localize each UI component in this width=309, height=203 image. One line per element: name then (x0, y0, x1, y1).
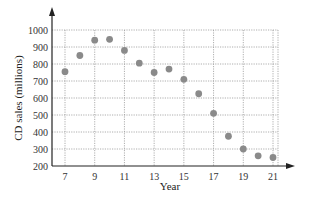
data-point (121, 47, 128, 54)
data-point (91, 37, 98, 44)
x-tick-label: 15 (179, 171, 189, 182)
y-axis-label: CD sales (millions) (12, 55, 25, 141)
x-tick-label: 13 (149, 171, 159, 182)
x-tick-label: 11 (120, 171, 130, 182)
x-tick-label: 21 (268, 171, 278, 182)
y-tick-label: 800 (33, 59, 48, 70)
data-point (240, 146, 247, 153)
y-tick-label: 200 (33, 161, 48, 172)
y-tick-label: 300 (33, 144, 48, 155)
y-axis-arrow-icon (49, 7, 55, 16)
grid-lines (52, 30, 278, 166)
data-point (225, 133, 232, 140)
x-axis-arrow-icon (286, 163, 295, 169)
y-tick-label: 500 (33, 110, 48, 121)
data-point (136, 60, 143, 67)
x-tick-label: 7 (63, 171, 68, 182)
axes (49, 7, 295, 169)
y-tick-label: 900 (33, 42, 48, 53)
x-tick-label: 19 (238, 171, 248, 182)
y-tick-labels: 2003004005006007008009001000 (28, 25, 48, 172)
data-point (151, 69, 158, 76)
data-point (106, 36, 113, 43)
x-tick-label: 17 (209, 171, 219, 182)
x-tick-label: 9 (92, 171, 97, 182)
data-point (76, 52, 83, 59)
data-point (270, 154, 277, 161)
data-point (62, 68, 69, 75)
data-point (166, 66, 173, 73)
data-point (195, 90, 202, 97)
data-points (62, 36, 277, 161)
scatter-chart: 2003004005006007008009001000 79111315171… (0, 0, 309, 203)
data-point (255, 152, 262, 159)
y-tick-label: 1000 (28, 25, 48, 36)
x-axis-label: Year (160, 180, 181, 192)
data-point (210, 110, 217, 117)
y-tick-label: 600 (33, 93, 48, 104)
y-tick-label: 700 (33, 76, 48, 87)
y-tick-label: 400 (33, 127, 48, 138)
data-point (180, 76, 187, 83)
